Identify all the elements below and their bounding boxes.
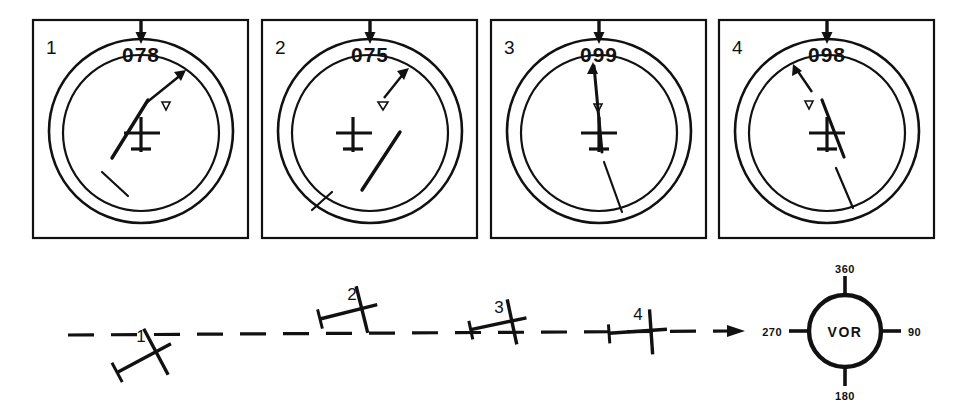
panel-number-label: 1 xyxy=(46,37,57,58)
radial-label-180: 180 xyxy=(835,390,855,402)
vor-station-label: VOR xyxy=(828,324,863,340)
course-selector-readout: 075 xyxy=(351,43,389,66)
course-selector-readout: 078 xyxy=(122,43,160,66)
instrument-panel-1[interactable]: 1 078 xyxy=(33,20,248,238)
aircraft-number-label: 4 xyxy=(633,305,642,324)
radial-label-360: 360 xyxy=(835,263,855,275)
instrument-panel-3[interactable]: 3 099 xyxy=(491,20,706,238)
aircraft-number-label: 3 xyxy=(494,298,503,317)
panel-number-label: 3 xyxy=(504,37,515,58)
aircraft-number-label: 1 xyxy=(136,327,145,346)
instrument-panel-4[interactable]: 4 098 xyxy=(719,20,934,238)
aircraft-number-label: 2 xyxy=(347,285,356,304)
panel-number-label: 2 xyxy=(275,37,286,58)
course-selector-readout: 099 xyxy=(580,43,618,66)
course-selector-readout: 098 xyxy=(808,43,846,66)
instrument-panel-2[interactable]: 2 075 xyxy=(262,20,477,238)
radial-label-270: 270 xyxy=(762,326,782,338)
panel-number-label: 4 xyxy=(732,37,743,58)
radial-label-90: 90 xyxy=(908,326,921,338)
vor-interception-figure: 1 078 2 075 xyxy=(0,0,954,410)
